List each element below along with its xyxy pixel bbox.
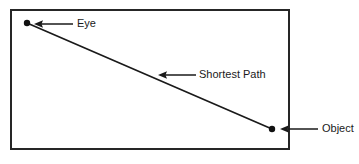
eye-point (24, 20, 30, 26)
shortest-path-diagram: Eye Shortest Path Object (0, 0, 359, 164)
object-label: Object (322, 122, 354, 134)
eye-label: Eye (77, 17, 96, 29)
diagram-canvas: Eye Shortest Path Object (0, 0, 359, 164)
object-point (269, 126, 275, 132)
object-annotation: Object (280, 122, 354, 134)
shortest-path-label: Shortest Path (199, 68, 266, 80)
